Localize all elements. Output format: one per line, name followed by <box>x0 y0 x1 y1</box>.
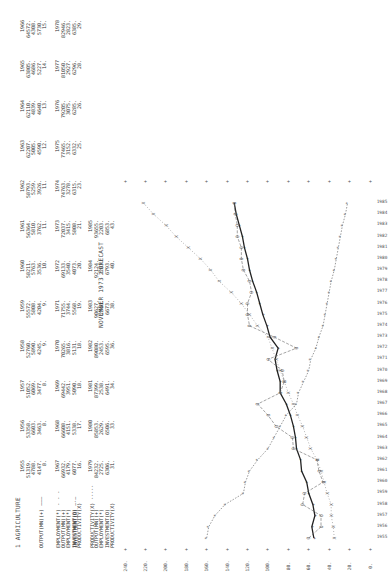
svg-text:+: + <box>346 180 352 183</box>
svg-text:1982: 1982 <box>377 233 388 238</box>
svg-text:*: * <box>327 291 332 294</box>
svg-text:O: O <box>272 335 277 338</box>
svg-text:1984: 1984 <box>377 210 388 215</box>
svg-text:O: O <box>235 224 240 227</box>
svg-text:+: + <box>264 180 270 183</box>
svg-text:X: X <box>329 503 334 506</box>
svg-text:O: O <box>300 503 305 506</box>
line-chart: +0.++20.++40.++60.++80.++100.++120.++140… <box>0 0 391 578</box>
svg-text:1971: 1971 <box>377 355 388 360</box>
svg-text:X: X <box>229 291 234 294</box>
svg-text:+: + <box>326 548 332 551</box>
svg-text:+: + <box>162 548 168 551</box>
svg-text:100.: 100. <box>265 560 270 571</box>
svg-text:X: X <box>300 425 305 428</box>
svg-text:X: X <box>186 246 191 249</box>
svg-text:+: + <box>244 548 250 551</box>
svg-text:*: * <box>345 201 350 204</box>
svg-text:O: O <box>241 268 246 271</box>
svg-text:180.: 180. <box>184 560 189 571</box>
svg-text:X: X <box>274 358 279 361</box>
svg-text:X: X <box>239 302 244 305</box>
svg-text:1973: 1973 <box>377 333 388 338</box>
svg-text:+: + <box>265 324 270 327</box>
svg-text:+: + <box>183 548 189 551</box>
svg-text:X: X <box>322 481 327 484</box>
svg-text:O: O <box>232 201 237 204</box>
svg-text:+: + <box>264 548 270 551</box>
svg-text:X: X <box>266 335 271 338</box>
svg-text:*: * <box>308 358 313 361</box>
svg-text:+: + <box>367 180 373 183</box>
svg-text:*: * <box>325 302 330 305</box>
svg-text:1959: 1959 <box>377 489 388 494</box>
svg-text:*: * <box>340 224 345 227</box>
svg-text:+: + <box>310 525 315 528</box>
svg-text:*: * <box>213 514 218 517</box>
svg-text:+: + <box>305 548 311 551</box>
svg-text:0.: 0. <box>368 563 373 569</box>
svg-text:+: + <box>254 291 259 294</box>
svg-text:+: + <box>203 180 209 183</box>
svg-text:1961: 1961 <box>377 467 388 472</box>
svg-text:1980: 1980 <box>377 255 388 260</box>
svg-text:1983: 1983 <box>377 221 388 226</box>
svg-text:+: + <box>276 347 281 350</box>
svg-text:*: * <box>338 235 343 238</box>
svg-text:+: + <box>245 257 250 260</box>
svg-text:120.: 120. <box>245 560 250 571</box>
svg-text:1965: 1965 <box>377 422 388 427</box>
svg-text:60.: 60. <box>306 562 311 570</box>
svg-text:O: O <box>291 447 296 450</box>
svg-text:+: + <box>142 548 148 551</box>
svg-text:X: X <box>315 458 320 461</box>
svg-text:X: X <box>319 469 324 472</box>
svg-text:1958: 1958 <box>377 501 388 506</box>
svg-text:X: X <box>331 525 336 528</box>
svg-text:1976: 1976 <box>377 300 388 305</box>
svg-text:+: + <box>224 548 230 551</box>
svg-text:1956: 1956 <box>377 523 388 528</box>
svg-text:1974: 1974 <box>377 322 388 327</box>
svg-text:X: X <box>217 280 222 283</box>
svg-text:+: + <box>142 180 148 183</box>
svg-text:+: + <box>122 180 128 183</box>
svg-text:*: * <box>243 481 248 484</box>
svg-text:+: + <box>298 458 303 461</box>
svg-text:1970: 1970 <box>377 367 388 372</box>
svg-text:O: O <box>255 402 260 405</box>
svg-text:+: + <box>261 313 266 316</box>
svg-text:O: O <box>247 324 252 327</box>
svg-text:+: + <box>285 548 291 551</box>
svg-text:1985: 1985 <box>377 199 388 204</box>
svg-text:140.: 140. <box>225 560 230 571</box>
svg-text:1964: 1964 <box>377 434 388 439</box>
svg-text:X: X <box>278 369 283 372</box>
svg-text:1968: 1968 <box>377 389 388 394</box>
svg-text:+: + <box>183 180 189 183</box>
svg-text:+: + <box>257 302 262 305</box>
svg-text:*: * <box>321 324 326 327</box>
svg-text:*: * <box>301 380 306 383</box>
svg-text:X: X <box>270 347 275 350</box>
svg-text:+: + <box>203 548 209 551</box>
svg-text:1977: 1977 <box>377 288 388 293</box>
svg-text:X: X <box>291 402 296 405</box>
svg-text:*: * <box>332 268 337 271</box>
svg-text:1966: 1966 <box>377 411 388 416</box>
svg-text:*: * <box>317 335 322 338</box>
svg-text:O: O <box>266 414 271 417</box>
svg-text:O: O <box>249 291 254 294</box>
svg-text:+: + <box>285 180 291 183</box>
svg-text:O: O <box>274 425 279 428</box>
svg-text:*: * <box>241 492 246 495</box>
svg-text:X: X <box>304 436 309 439</box>
svg-text:+: + <box>305 180 311 183</box>
svg-text:+: + <box>312 536 317 539</box>
svg-text:O: O <box>306 536 311 539</box>
svg-text:*: * <box>296 391 301 394</box>
svg-text:X: X <box>295 414 300 417</box>
svg-text:X: X <box>332 536 337 539</box>
svg-text:+: + <box>224 180 230 183</box>
svg-text:*: * <box>314 347 319 350</box>
